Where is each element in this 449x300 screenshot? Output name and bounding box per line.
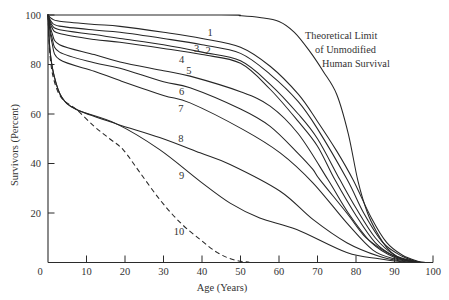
x-tick-label: 30: [158, 266, 169, 277]
annotation-line-2: of Unmodified: [315, 44, 377, 55]
x-tick-label: 80: [351, 266, 362, 277]
x-tick-label: 100: [425, 266, 441, 277]
curve-label-7: 7: [178, 103, 183, 114]
x-tick-label: 60: [274, 266, 285, 277]
y-tick-label: 80: [31, 59, 42, 70]
x-tick-label: 10: [81, 266, 92, 277]
x-tick-label: 0: [37, 266, 42, 277]
curve-label-6: 6: [179, 86, 184, 97]
y-tick-label: 60: [31, 109, 42, 120]
curve-label-5: 5: [186, 65, 191, 76]
x-tick-label: 40: [197, 266, 208, 277]
x-axis-title: Age (Years): [197, 282, 248, 294]
curve-label-2: 2: [206, 45, 211, 56]
x-tick-label: 70: [312, 266, 323, 277]
y-tick-label: 40: [31, 158, 42, 169]
curve-label-9: 9: [179, 170, 184, 181]
curve-label-10: 10: [174, 226, 185, 237]
y-tick-label: 100: [25, 10, 41, 21]
y-ticks: 20406080100: [25, 10, 54, 219]
y-axis-title: Survivors (Percent): [9, 104, 21, 186]
curve-labels: 12345678910: [174, 27, 213, 237]
survival-curves-chart: 0102030405060708090100 20406080100 12345…: [0, 0, 449, 300]
curve-label-4: 4: [179, 54, 185, 65]
x-tick-label: 50: [235, 266, 246, 277]
annotation-line-3: Human Survival: [322, 58, 390, 69]
x-tick-label: 20: [120, 266, 131, 277]
curve-label-1: 1: [207, 27, 212, 38]
annotation-line-1: Theoretical Limit: [305, 30, 377, 41]
y-tick-label: 20: [31, 208, 42, 219]
curve-label-8: 8: [178, 133, 183, 144]
x-tick-label: 90: [389, 266, 400, 277]
curve-label-3: 3: [194, 43, 199, 54]
